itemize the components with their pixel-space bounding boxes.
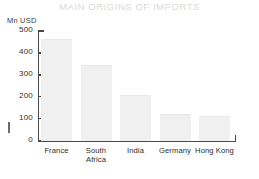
- bar: [199, 116, 230, 141]
- bar: [81, 65, 112, 141]
- bar: [41, 39, 72, 141]
- x-axis-line: [38, 141, 236, 143]
- bar-category-label-line: Africa: [66, 156, 126, 165]
- y-tick-label: 100: [19, 114, 33, 122]
- y-axis-line: [38, 31, 39, 142]
- y-tick-label-wrap: 300: [0, 70, 33, 80]
- y-axis-unit-label: Mn USD: [7, 16, 37, 25]
- chart-title: MAIN ORIGINS OF IMPORTS: [0, 1, 259, 12]
- y-tick-label: 400: [19, 48, 33, 56]
- y-tick-label-wrap: 100: [0, 114, 33, 124]
- bar-category-label-line: Hong Kong: [185, 147, 245, 156]
- bar: [120, 95, 151, 141]
- y-tick-label-wrap: 0: [0, 136, 33, 146]
- y-tick-label: 300: [19, 70, 33, 78]
- bar: [160, 114, 191, 140]
- y-tick-label: 200: [19, 92, 33, 100]
- bar-chart-figure: MAIN ORIGINS OF IMPORTS Mn USD 010020030…: [0, 0, 259, 179]
- bars-layer: [41, 31, 237, 141]
- bar-category-label: Hong Kong: [185, 147, 245, 156]
- y-tick-label-wrap: 500: [0, 26, 33, 36]
- y-tick-label: 0: [28, 136, 33, 144]
- y-tick-label: 500: [19, 26, 33, 34]
- y-tick-label-wrap: 200: [0, 92, 33, 102]
- y-tick-label-wrap: 400: [0, 48, 33, 58]
